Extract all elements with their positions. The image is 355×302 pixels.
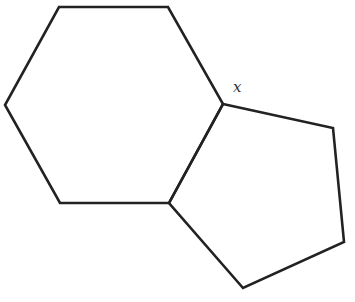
angle-label-x: x <box>233 78 242 96</box>
geometry-diagram: x <box>0 0 355 302</box>
hexagon <box>5 7 223 203</box>
pentagon <box>169 104 344 288</box>
